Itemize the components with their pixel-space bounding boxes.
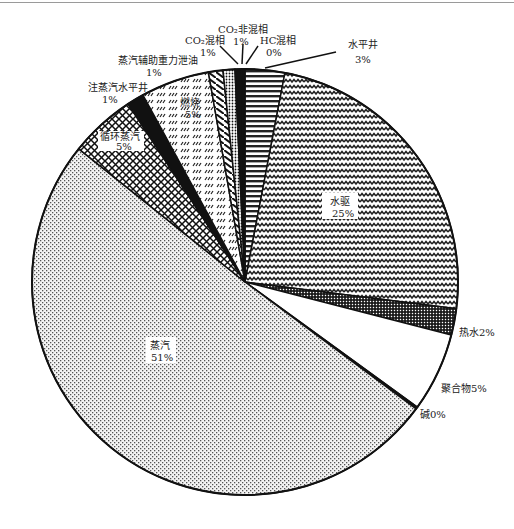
label-combustion-pct: 5% <box>185 109 201 120</box>
label-waterflood-name: 水驱 <box>330 196 350 207</box>
leader-line-co2-immiscible <box>242 44 243 64</box>
label-steam-horizontal-well-name: 注蒸汽水平井 <box>88 81 148 93</box>
label-hc-miscible-name: HC混相 <box>260 34 296 46</box>
label-sagd-pct: 1% <box>146 67 162 78</box>
label-co2-immiscible-pct: 1% <box>233 36 249 47</box>
label-hc-miscible-pct: 0% <box>266 47 282 58</box>
label-hot-water: 热水2% <box>459 326 495 338</box>
label-combustion-name: 燃烧 <box>180 96 200 108</box>
label-alkali: 碱0% <box>420 409 446 420</box>
label-co2-miscible-name: CO₂混相 <box>185 34 225 46</box>
label-cyclic-steam-pct: 5% <box>116 141 132 152</box>
label-polymer: 聚合物5% <box>441 382 487 394</box>
leader-line-hc-miscible <box>246 46 258 64</box>
pie-chart: 水平井 3% 水驱 25% 热水2% 聚合物5% 碱0% 蒸汽 51% 循环蒸汽… <box>0 0 514 529</box>
label-co2-miscible-pct: 1% <box>200 47 216 58</box>
label-horizontal-well-pct: 3% <box>355 54 371 65</box>
label-horizontal-well-name: 水平井 <box>348 38 378 50</box>
label-waterflood-pct: 25% <box>332 208 354 219</box>
label-sagd-name: 蒸汽辅助重力泄油 <box>118 54 198 66</box>
leader-line-co2-miscible <box>220 46 238 64</box>
label-steam-horizontal-well-pct: 1% <box>102 94 118 105</box>
label-steam-name: 蒸汽 <box>150 339 170 351</box>
label-co2-immiscible-name: CO₂非混相 <box>218 23 268 35</box>
label-steam-pct: 51% <box>151 352 173 363</box>
